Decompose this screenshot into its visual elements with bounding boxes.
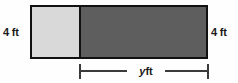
light-square-region [32, 7, 81, 57]
width-unit: ft [145, 65, 152, 77]
dark-rectangle-region [81, 7, 206, 57]
right-height-label: 4 ft [211, 27, 227, 38]
width-label: yft [127, 63, 165, 79]
geometry-figure: 4 ft 4 ft yft [0, 0, 238, 83]
composite-rectangle [30, 5, 208, 59]
dimension-rule-right [165, 70, 208, 72]
width-dimension-line: yft [79, 63, 209, 81]
dimension-tick-right [207, 64, 209, 79]
dimension-rule-left [80, 70, 127, 72]
left-height-label: 4 ft [3, 27, 19, 38]
